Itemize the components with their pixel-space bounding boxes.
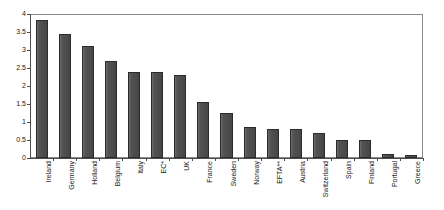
bar	[174, 75, 186, 158]
x-axis-tick-label: Ireland	[45, 161, 53, 182]
bar-slot	[59, 14, 71, 158]
x-axis-label-wrap: Greece	[407, 161, 415, 209]
x-axis-label-wrap: Sweden	[223, 161, 231, 209]
x-axis-tick-mark	[354, 158, 355, 161]
x-axis-tick-label: Spain	[345, 161, 353, 179]
y-axis-tick-label: 0.5	[0, 136, 26, 143]
x-axis-tick-label: France	[206, 161, 214, 183]
bar-slot	[244, 14, 256, 158]
bar-slot	[197, 14, 209, 158]
x-axis-label-wrap: Norway	[246, 161, 254, 209]
x-axis-tick-mark	[169, 158, 170, 161]
y-axis-tick-mark	[27, 14, 30, 15]
x-axis-label-wrap: Italy	[130, 161, 138, 209]
y-axis-tick-mark	[27, 140, 30, 141]
x-axis-tick-mark	[261, 158, 262, 161]
x-axis-label-wrap: Belgium	[107, 161, 115, 209]
bar	[128, 72, 140, 158]
x-axis-tick-mark	[238, 158, 239, 161]
bar-slot	[36, 14, 48, 158]
y-axis-tick-label: 2	[0, 82, 26, 89]
bar	[244, 127, 256, 158]
x-axis-tick-label: Norway	[253, 161, 261, 185]
bar	[105, 61, 117, 158]
y-axis-tick-mark	[27, 122, 30, 123]
bar-slot	[105, 14, 117, 158]
x-axis-label-wrap: Germany	[61, 161, 69, 209]
y-axis-tick-label: 1	[0, 118, 26, 125]
x-axis-label-wrap: Switzerland	[315, 161, 323, 209]
y-axis-tick-mark	[27, 32, 30, 33]
bar	[82, 46, 94, 158]
bar-slot	[405, 14, 417, 158]
x-axis-tick-label: Sweden	[230, 161, 238, 186]
bar	[313, 133, 325, 158]
x-axis-tick-mark	[99, 158, 100, 161]
x-axis-tick-label: UK	[183, 161, 191, 171]
bar-slot	[128, 14, 140, 158]
x-axis-label-wrap: EC*	[153, 161, 161, 209]
x-axis-tick-mark	[76, 158, 77, 161]
x-axis-tick-label: EC*	[160, 161, 168, 173]
y-axis-tick-label: 2.5	[0, 64, 26, 71]
x-axis-label-wrap: Holland	[84, 161, 92, 209]
y-axis-tick-mark	[27, 86, 30, 87]
x-axis-tick-mark	[215, 158, 216, 161]
bar	[36, 20, 48, 158]
bar	[220, 113, 232, 158]
x-axis-tick-mark	[53, 158, 54, 161]
bar	[382, 154, 394, 158]
bar	[151, 72, 163, 158]
x-axis-line	[30, 158, 424, 159]
bar	[59, 34, 71, 158]
x-axis-tick-mark	[400, 158, 401, 161]
bar-slot	[382, 14, 394, 158]
x-axis-tick-mark	[122, 158, 123, 161]
bar-slot	[290, 14, 302, 158]
x-axis-label-wrap: Austria	[292, 161, 300, 209]
x-axis-tick-label: Germany	[68, 161, 76, 190]
x-axis-tick-label: Belgium	[114, 161, 122, 186]
x-axis-label-wrap: Spain	[338, 161, 346, 209]
bar-chart: 00.511.522.533.54 IrelandGermanyHollandB…	[0, 0, 444, 210]
y-axis-tick-label: 3	[0, 46, 26, 53]
y-axis-tick-mark	[27, 158, 30, 159]
x-axis-tick-mark	[377, 158, 378, 161]
y-axis-tick-label: 3.5	[0, 28, 26, 35]
bar-slot	[174, 14, 186, 158]
x-axis-tick-mark	[192, 158, 193, 161]
y-axis-tick-label: 0	[0, 154, 26, 161]
y-axis-tick-label: 4	[0, 10, 26, 17]
x-axis-tick-label: Austria	[299, 161, 307, 183]
bar	[267, 129, 279, 158]
y-axis-line	[30, 14, 31, 159]
bar-slot	[151, 14, 163, 158]
x-axis-label-wrap: Ireland	[38, 161, 46, 209]
x-axis-tick-mark	[284, 158, 285, 161]
bar	[405, 155, 417, 158]
x-axis-tick-mark	[423, 158, 424, 161]
x-axis-label-wrap: France	[199, 161, 207, 209]
bar	[290, 129, 302, 158]
x-axis-tick-label: Switzerland	[322, 161, 330, 197]
y-axis-tick-label: 1.5	[0, 100, 26, 107]
bar-slot	[313, 14, 325, 158]
x-axis-tick-mark	[146, 158, 147, 161]
x-axis-label-wrap: UK	[176, 161, 184, 209]
bar	[336, 140, 348, 158]
x-axis-tick-mark	[331, 158, 332, 161]
bar-slot	[82, 14, 94, 158]
x-axis-tick-mark	[307, 158, 308, 161]
bar-slot	[336, 14, 348, 158]
x-axis-tick-label: Greece	[414, 161, 422, 184]
bar-slot	[267, 14, 279, 158]
y-axis-tick-mark	[27, 104, 30, 105]
y-axis-tick-mark	[27, 50, 30, 51]
x-axis-tick-label: Portugal	[391, 161, 399, 187]
x-axis-tick-label: Italy	[137, 161, 145, 174]
bar	[197, 102, 209, 158]
x-axis-tick-label: Holland	[91, 161, 99, 185]
x-axis-tick-label: EFTA**	[276, 161, 284, 184]
x-axis-label-wrap: Portugal	[384, 161, 392, 209]
x-axis-label-wrap: EFTA**	[269, 161, 277, 209]
